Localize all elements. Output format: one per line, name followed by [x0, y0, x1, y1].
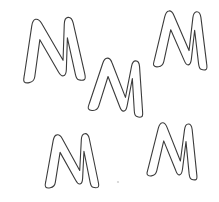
drawing-canvas: MMMMM — [0, 0, 219, 202]
artifact-speck-1 — [117, 181, 119, 183]
letter-m-scene: MMMMM — [0, 0, 219, 202]
artifact-layer — [117, 181, 119, 183]
